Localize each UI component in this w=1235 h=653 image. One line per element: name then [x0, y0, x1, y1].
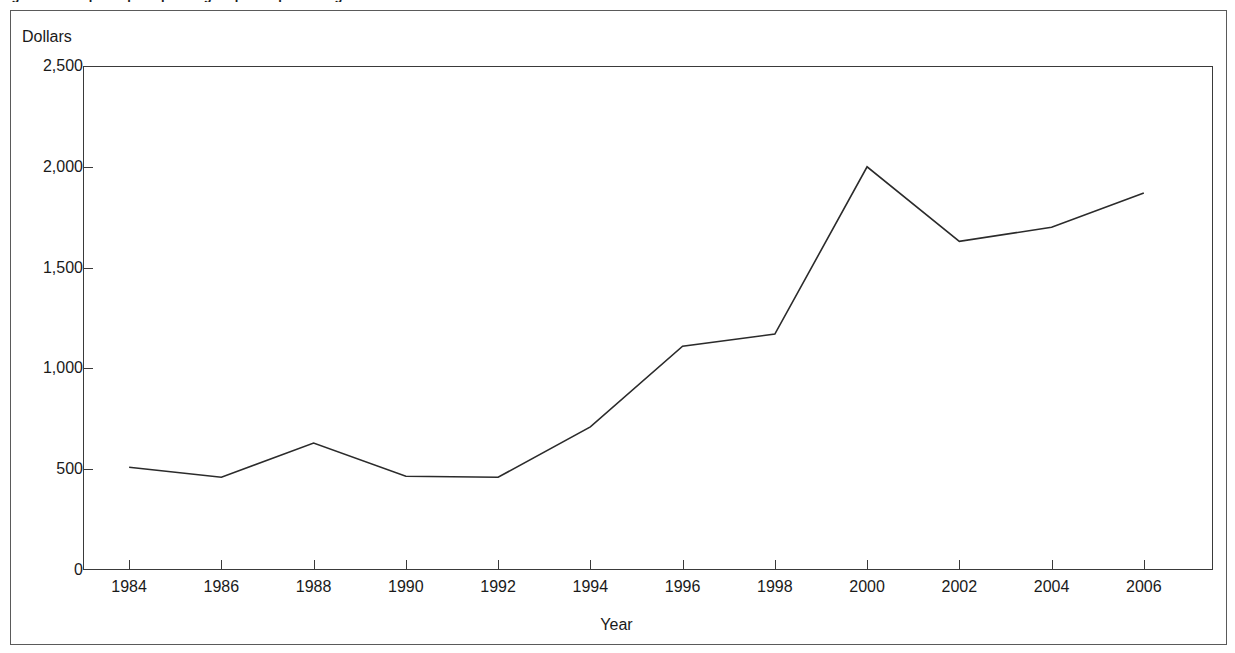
x-tick-mark	[1052, 560, 1053, 570]
x-tick-label: 1994	[573, 578, 609, 596]
x-tick-mark	[314, 560, 315, 570]
x-tick-mark	[959, 560, 960, 570]
x-tick-label: 2006	[1126, 578, 1162, 596]
x-tick-mark	[498, 560, 499, 570]
y-tick-mark	[84, 368, 93, 369]
x-tick-label: 1986	[204, 578, 240, 596]
y-tick-mark	[84, 469, 93, 470]
y-tick-label: 0	[11, 561, 83, 579]
y-tick-mark	[84, 167, 93, 168]
x-tick-mark	[775, 560, 776, 570]
y-tick-label: 2,500	[11, 57, 83, 75]
x-tick-label: 1996	[665, 578, 701, 596]
x-tick-mark	[221, 560, 222, 570]
x-tick-mark	[590, 560, 591, 570]
x-axis-title-text: Year	[600, 616, 632, 634]
y-tick-mark	[84, 268, 93, 269]
chart-figure: Figure 5. Real per capita spending on pr…	[0, 0, 1235, 653]
x-tick-mark	[1144, 560, 1145, 570]
x-tick-label: 1990	[388, 578, 424, 596]
x-axis-title: Year	[0, 616, 1235, 634]
y-axis-tick-labels: 05001,0001,5002,0002,500	[0, 0, 83, 653]
plot-area-frame	[83, 66, 1213, 570]
x-tick-label: 1984	[111, 578, 147, 596]
x-tick-label: 2000	[849, 578, 885, 596]
x-tick-label: 1998	[757, 578, 793, 596]
x-tick-label: 2004	[1034, 578, 1070, 596]
x-tick-mark	[129, 560, 130, 570]
figure-caption-partial: Figure 5. Real per capita spending on pr…	[0, 0, 1235, 2]
x-tick-label: 2002	[942, 578, 978, 596]
y-tick-label: 1,500	[11, 259, 83, 277]
x-tick-label: 1992	[480, 578, 516, 596]
x-tick-mark	[867, 560, 868, 570]
y-tick-label: 500	[11, 460, 83, 478]
y-tick-label: 2,000	[11, 158, 83, 176]
x-tick-mark	[406, 560, 407, 570]
y-tick-label: 1,000	[11, 359, 83, 377]
x-tick-mark	[683, 560, 684, 570]
x-tick-label: 1988	[296, 578, 332, 596]
